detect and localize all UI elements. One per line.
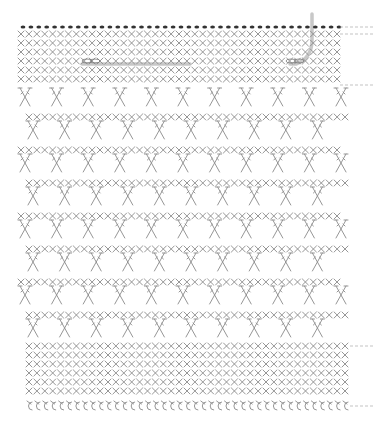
single-crochet-icon <box>302 76 308 82</box>
single-crochet-icon <box>152 279 158 285</box>
single-crochet-icon <box>144 49 150 55</box>
single-crochet-icon <box>137 180 143 186</box>
single-crochet-icon <box>239 58 245 64</box>
single-crochet-icon <box>247 40 253 46</box>
slip-stitch-icon <box>44 26 49 29</box>
single-crochet-icon <box>271 67 277 73</box>
single-crochet-icon <box>231 180 237 186</box>
crochet-stitch-chart <box>0 0 373 445</box>
single-crochet-icon <box>310 312 316 318</box>
single-crochet-icon <box>271 388 277 394</box>
single-crochet-icon <box>184 213 190 219</box>
single-crochet-icon <box>152 40 158 46</box>
single-crochet-icon <box>50 67 56 73</box>
single-crochet-icon <box>66 361 72 367</box>
single-crochet-icon <box>113 31 119 37</box>
single-crochet-icon <box>231 67 237 73</box>
single-crochet-icon <box>58 352 64 358</box>
single-crochet-icon <box>184 352 190 358</box>
single-crochet-icon <box>271 76 277 82</box>
single-crochet-icon <box>263 312 269 318</box>
single-crochet-icon <box>318 213 324 219</box>
single-crochet-icon <box>26 343 32 349</box>
single-crochet-icon <box>342 312 348 318</box>
single-crochet-icon <box>42 213 48 219</box>
slip-stitch-icon <box>147 26 152 29</box>
single-crochet-icon <box>73 370 79 376</box>
single-crochet-icon <box>326 67 332 73</box>
crossed-double-crochet-icon <box>113 220 127 238</box>
single-crochet-icon <box>42 352 48 358</box>
single-crochet-icon <box>97 312 103 318</box>
single-crochet-icon <box>66 343 72 349</box>
crossed-double-crochet-icon <box>271 286 285 304</box>
single-crochet-icon <box>310 114 316 120</box>
crossed-double-crochet-icon <box>26 253 40 271</box>
single-crochet-icon <box>200 67 206 73</box>
single-crochet-icon <box>176 213 182 219</box>
single-crochet-icon <box>239 352 245 358</box>
single-crochet-icon <box>97 31 103 37</box>
crossed-double-crochet-icon <box>81 220 95 238</box>
slip-stitch-icon <box>29 26 34 29</box>
single-crochet-icon <box>58 343 64 349</box>
crossed-double-crochet-icon <box>121 319 135 337</box>
single-crochet-icon <box>247 343 253 349</box>
single-crochet-icon <box>302 49 308 55</box>
single-crochet-icon <box>231 312 237 318</box>
single-crochet-icon <box>18 147 24 153</box>
single-crochet-icon <box>208 361 214 367</box>
single-crochet-icon <box>113 40 119 46</box>
single-crochet-icon <box>334 361 340 367</box>
single-crochet-icon <box>208 213 214 219</box>
single-crochet-icon <box>271 361 277 367</box>
single-crochet-icon <box>247 246 253 252</box>
single-crochet-icon <box>97 40 103 46</box>
single-crochet-icon <box>160 379 166 385</box>
slip-stitch-icon <box>100 26 105 29</box>
single-crochet-icon <box>58 31 64 37</box>
single-crochet-icon <box>145 388 151 394</box>
single-crochet-icon <box>247 114 253 120</box>
single-crochet-icon <box>287 213 293 219</box>
single-crochet-icon <box>160 312 166 318</box>
single-crochet-icon <box>334 76 340 82</box>
crossed-double-crochet-icon <box>208 88 222 106</box>
single-crochet-icon <box>168 388 174 394</box>
single-crochet-icon <box>231 147 237 153</box>
single-crochet-icon <box>231 213 237 219</box>
single-crochet-icon <box>137 343 143 349</box>
single-crochet-icon <box>89 343 95 349</box>
single-crochet-icon <box>223 147 229 153</box>
crossed-double-crochet-icon <box>89 121 103 139</box>
single-crochet-icon <box>295 213 301 219</box>
crossed-double-crochet-icon <box>18 88 32 106</box>
single-crochet-icon <box>216 312 222 318</box>
single-crochet-icon <box>145 312 151 318</box>
single-crochet-icon <box>318 180 324 186</box>
single-crochet-icon <box>279 312 285 318</box>
row-crossed <box>26 253 324 271</box>
slip-stitch-icon <box>76 26 81 29</box>
row-crossed <box>26 187 324 205</box>
single-crochet-icon <box>18 213 24 219</box>
single-crochet-icon <box>200 49 206 55</box>
single-crochet-icon <box>200 279 206 285</box>
single-crochet-icon <box>176 246 182 252</box>
single-crochet-icon <box>239 180 245 186</box>
single-crochet-icon <box>247 76 253 82</box>
slip-stitch-icon <box>258 26 263 29</box>
crossed-double-crochet-icon <box>184 187 198 205</box>
row-x <box>18 31 340 37</box>
single-crochet-icon <box>326 49 332 55</box>
single-crochet-icon <box>97 388 103 394</box>
crossed-double-crochet-icon <box>176 154 190 172</box>
single-crochet-icon <box>18 76 24 82</box>
single-crochet-icon <box>34 370 40 376</box>
single-crochet-icon <box>50 370 56 376</box>
single-crochet-icon <box>271 114 277 120</box>
slip-stitch-icon <box>131 26 136 29</box>
single-crochet-icon <box>168 361 174 367</box>
single-crochet-icon <box>263 246 269 252</box>
single-crochet-icon <box>105 361 111 367</box>
